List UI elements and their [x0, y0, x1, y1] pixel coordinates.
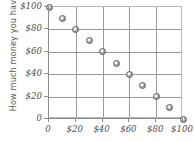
x-axis-tick — [128, 118, 129, 122]
y-axis-tick — [44, 118, 48, 119]
gridline-horizontal — [49, 52, 181, 53]
y-tick-label: $100 — [0, 1, 42, 11]
gridline-horizontal — [49, 29, 181, 30]
x-axis-tick — [182, 118, 183, 122]
data-point — [139, 82, 146, 89]
data-point — [153, 93, 160, 100]
x-tick-label: $100 — [165, 124, 194, 134]
y-axis-tick — [44, 73, 48, 74]
data-point — [180, 116, 187, 123]
data-point — [113, 60, 120, 67]
y-axis-line — [48, 6, 49, 119]
y-axis-tick — [44, 96, 48, 97]
data-point — [126, 71, 133, 78]
data-point — [59, 15, 66, 22]
gridline-vertical — [129, 7, 130, 117]
plot-area — [48, 6, 182, 118]
y-axis-tick — [44, 28, 48, 29]
scatter-chart: How much money you have 0$20$40$60$80$10… — [0, 0, 194, 142]
y-axis-tick — [44, 51, 48, 52]
gridline-horizontal — [49, 74, 181, 75]
y-tick-label: 0 — [0, 113, 42, 123]
x-axis-tick — [48, 118, 49, 122]
x-axis-tick — [75, 118, 76, 122]
data-point — [166, 104, 173, 111]
x-axis-line — [48, 118, 183, 119]
y-tick-label: $80 — [0, 23, 42, 33]
data-point — [46, 4, 53, 11]
data-point — [99, 48, 106, 55]
y-tick-label: $60 — [0, 46, 42, 56]
x-axis-tick — [155, 118, 156, 122]
y-tick-label: $40 — [0, 68, 42, 78]
gridline-horizontal — [49, 97, 181, 98]
y-axis-tick — [44, 6, 48, 7]
x-axis-tick — [102, 118, 103, 122]
data-point — [86, 37, 93, 44]
gridline-vertical — [156, 7, 157, 117]
gridline-vertical — [76, 7, 77, 117]
y-tick-label: $20 — [0, 91, 42, 101]
gridline-vertical — [103, 7, 104, 117]
data-point — [72, 26, 79, 33]
